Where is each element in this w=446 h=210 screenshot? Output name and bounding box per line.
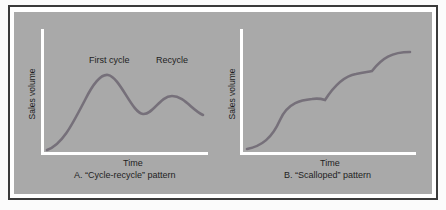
panel-a-y-label: Sales volume [27, 67, 37, 121]
panel-a-caption: A. “Cycle-recycle” pattern [74, 170, 176, 180]
panel-b-x-label: Time [320, 158, 340, 168]
panel-b-y-label: Sales volume [227, 67, 237, 121]
annotation-first-cycle: First cycle [89, 55, 130, 65]
panel-a-curve [47, 75, 203, 150]
panel-a-x-label: Time [123, 158, 143, 168]
panel-b-curve [247, 52, 410, 149]
curves [0, 0, 446, 210]
panel-b-caption: B. “Scalloped” pattern [284, 170, 371, 180]
annotation-recycle: Recycle [156, 55, 188, 65]
panel-b-axes [240, 29, 416, 155]
